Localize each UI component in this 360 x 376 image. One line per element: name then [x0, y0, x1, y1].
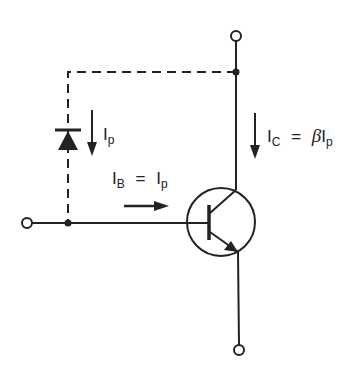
circuit-svg [0, 0, 360, 376]
diode-triangle-icon [58, 131, 78, 150]
ic-arrow-head-icon [250, 145, 260, 159]
emitter-wire [238, 252, 239, 345]
equals-sign: = [291, 127, 301, 146]
base-current-label: IB = Ip [112, 170, 168, 190]
circuit-diagram: Ip IB = Ip IC = βIp [0, 0, 360, 376]
terminal-top [231, 31, 241, 41]
equals-sign: = [135, 169, 145, 188]
label-sub: p [326, 135, 333, 149]
transistor-collector-lead [210, 190, 236, 213]
label-sub: C [272, 135, 281, 149]
collector-current-label: IC = βIp [267, 126, 333, 148]
label-sub: p [161, 177, 168, 191]
label-sub: p [108, 133, 115, 147]
label-sub: B [117, 177, 125, 191]
ip-arrow-head-icon [87, 142, 97, 156]
terminal-left [22, 218, 32, 228]
beta-symbol: β [312, 125, 321, 146]
terminal-bottom [234, 345, 244, 355]
junction-dot-left [65, 220, 72, 227]
diode-current-label: Ip [103, 126, 114, 146]
ib-arrow-head-icon [154, 201, 169, 211]
junction-dot-top [233, 69, 240, 76]
